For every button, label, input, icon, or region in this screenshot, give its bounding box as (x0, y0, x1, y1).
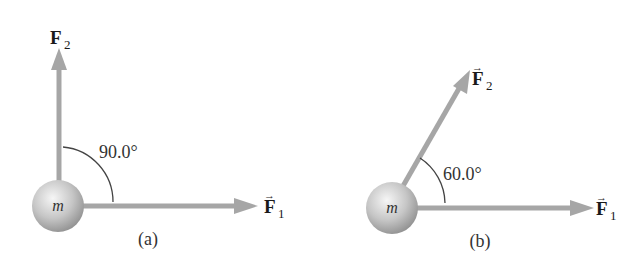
force-subscript: 2 (64, 37, 71, 52)
mass-label-b: m (386, 199, 398, 216)
force-f1-arrow-a (82, 198, 258, 214)
angle-arc-b (420, 158, 445, 203)
force-name: F (50, 27, 62, 48)
panel-caption-a: (a) (138, 229, 158, 250)
panel-caption-b: (b) (470, 231, 491, 252)
mass-sphere-b: m (366, 182, 418, 234)
force-f2-arrow-a (51, 48, 67, 182)
force-f2-label-b: → F 2 (472, 61, 493, 93)
mass-label-a: m (52, 197, 64, 214)
angle-label-a: 90.0° (99, 142, 138, 162)
force-f2-label-a: → F 2 (50, 27, 71, 52)
force-f1-label-b: → F 1 (596, 191, 617, 223)
force-f1-arrow-b (416, 200, 594, 216)
force-diagram-canvas: m → F 2 → F 1 90.0° (a) (0, 0, 632, 265)
force-name: F (264, 196, 276, 217)
force-subscript: 1 (278, 206, 285, 221)
angle-label-b: 60.0° (443, 164, 482, 184)
force-name: F (596, 198, 608, 219)
panel-a: m → F 2 → F 1 90.0° (a) (32, 27, 285, 250)
force-name: F (472, 68, 484, 89)
force-subscript: 1 (610, 208, 617, 223)
force-f1-label-a: → F 1 (264, 189, 285, 221)
panel-b: m → F 2 → F 1 60.0° (b) (366, 61, 617, 252)
mass-sphere-a: m (32, 180, 84, 232)
force-subscript: 2 (486, 78, 493, 93)
